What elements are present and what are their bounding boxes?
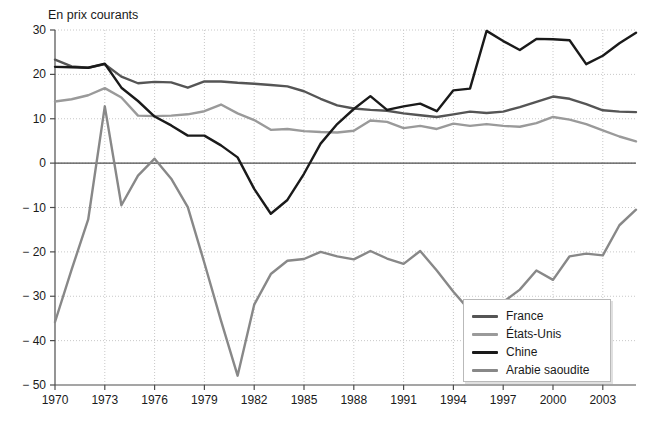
x-axis-tick-label: 1973 [91,393,118,407]
x-axis-tick-label: 1997 [490,393,517,407]
y-axis-tick-label: − 10 [2,201,46,215]
x-axis-tick-label: 1991 [390,393,417,407]
x-axis-tick-label: 1976 [141,393,168,407]
legend-item-label: Chine [506,345,537,359]
x-axis-tick-label: 1970 [42,393,69,407]
legend-swatch-icon [472,351,498,354]
x-axis-tick-label: 1985 [291,393,318,407]
series-line [55,31,636,214]
legend-item: France [472,307,543,325]
x-axis-tick-label: 2003 [589,393,616,407]
legend-item-label: États-Unis [506,327,561,341]
x-axis-tick-label: 2000 [540,393,567,407]
y-axis-tick-label: 20 [2,67,46,81]
legend-item: Arabie saoudite [472,361,589,379]
y-axis-tick-label: − 50 [2,378,46,392]
y-axis-tick-label: − 40 [2,334,46,348]
x-axis-tick-label: 1988 [340,393,367,407]
y-axis-tick-label: 0 [2,156,46,170]
legend-item: Chine [472,343,537,361]
y-axis-tick-label: − 20 [2,245,46,259]
legend-swatch-icon [472,333,498,336]
x-axis-tick-label: 1982 [241,393,268,407]
legend-swatch-icon [472,369,498,372]
legend-item: États-Unis [472,325,561,343]
legend-item-label: Arabie saoudite [506,363,589,377]
chart-legend: FranceÉtats-UnisChineArabie saoudite [463,299,611,382]
y-axis-tick-label: 10 [2,112,46,126]
legend-item-label: France [506,309,543,323]
y-axis-tick-label: − 30 [2,289,46,303]
series-line [55,60,636,117]
x-axis-tick-label: 1994 [440,393,467,407]
legend-swatch-icon [472,315,498,318]
x-axis-tick-label: 1979 [191,393,218,407]
series-line [55,88,636,141]
chart-container: En prix courants 3020100− 10− 20− 30− 40… [0,0,649,423]
y-axis-tick-label: 30 [2,23,46,37]
